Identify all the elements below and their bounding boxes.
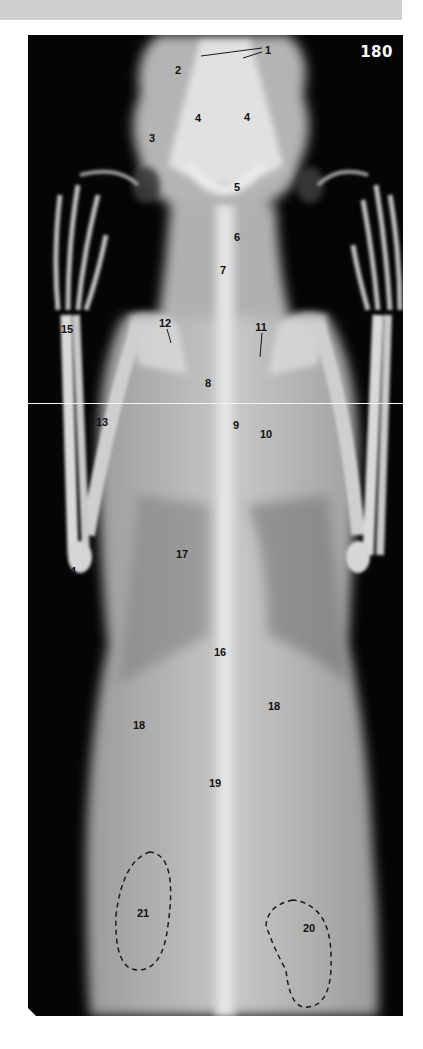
label-4-left: 4 [195,113,201,124]
label-8: 8 [205,378,211,389]
radiograph-image [28,35,403,1016]
label-12: 12 [159,318,171,329]
label-15: 15 [61,324,73,335]
label-11: 11 [255,322,267,333]
label-17: 17 [176,549,188,560]
label-16: 16 [214,647,226,658]
label-7: 7 [220,265,226,276]
label-1: 1 [265,45,271,56]
label-21: 21 [137,908,149,919]
figure-number: 180 [360,43,393,61]
page-header-bar [0,0,402,20]
label-2: 2 [175,65,181,76]
label-18-left: 18 [133,720,145,731]
label-18-right: 18 [268,701,280,712]
label-9: 9 [233,420,239,431]
label-3: 3 [149,133,155,144]
label-13: 13 [96,417,108,428]
label-14: 4 [70,566,76,577]
label-6: 6 [234,232,240,243]
label-20: 20 [303,923,315,934]
label-4-right: 4 [244,112,250,123]
label-10: 10 [260,429,272,440]
radiograph-figure: 180 1 2 3 4 4 5 6 7 8 9 10 11 12 13 4 15… [28,35,403,1016]
label-5: 5 [234,182,240,193]
label-19: 19 [209,778,221,789]
scan-seam-line [28,403,403,404]
